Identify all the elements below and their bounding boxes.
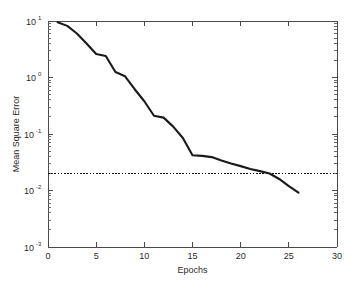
y-tick-label-0: 10 bbox=[26, 17, 36, 27]
y-tick-label-4: 10 bbox=[24, 243, 34, 253]
y-tick-exp-0: 1 bbox=[38, 15, 42, 21]
y-tick-label-1: 10 bbox=[26, 73, 36, 83]
x-tick-label-0: 0 bbox=[45, 251, 50, 261]
x-tick-label-3: 15 bbox=[187, 251, 197, 261]
figure-container: 10 1 10 0 10 -1 10 -2 10 -3 0 5 10 15 20… bbox=[0, 0, 361, 291]
x-axis-title: Epochs bbox=[177, 265, 208, 275]
plot-area-background bbox=[48, 21, 337, 247]
x-tick-label-6: 30 bbox=[332, 251, 342, 261]
y-tick-labels: 10 1 10 0 10 -1 10 -2 10 -3 bbox=[24, 15, 42, 253]
x-tick-labels: 0 5 10 15 20 25 30 bbox=[45, 251, 342, 261]
y-tick-label-3: 10 bbox=[24, 186, 34, 196]
x-tick-label-2: 10 bbox=[139, 251, 149, 261]
x-tick-label-5: 25 bbox=[284, 251, 294, 261]
y-tick-exp-2: -1 bbox=[36, 128, 42, 134]
y-tick-exp-3: -2 bbox=[36, 184, 42, 190]
y-tick-exp-1: 0 bbox=[38, 71, 42, 77]
y-axis-title: Mean Square Error bbox=[11, 96, 21, 173]
x-tick-label-1: 5 bbox=[94, 251, 99, 261]
y-tick-exp-4: -3 bbox=[36, 241, 42, 247]
mse-training-plot: 10 1 10 0 10 -1 10 -2 10 -3 0 5 10 15 20… bbox=[0, 0, 361, 291]
x-tick-label-4: 20 bbox=[236, 251, 246, 261]
y-tick-label-2: 10 bbox=[24, 130, 34, 140]
